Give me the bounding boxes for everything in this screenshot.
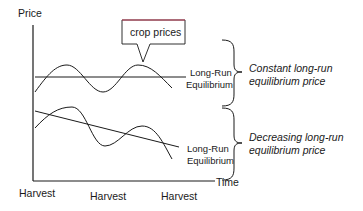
decreasing-equilibrium-line — [35, 111, 179, 147]
x-axis-label: Time — [216, 176, 239, 188]
x-tick-harvest-1: Harvest — [19, 187, 55, 199]
upper-note: Constant long-run equilibrium price — [249, 62, 332, 88]
upper-price-curve — [35, 65, 172, 92]
lower-price-curve — [35, 107, 172, 159]
diagram-canvas — [0, 0, 363, 211]
lower-line-label: Long-Run Equilibrium — [183, 143, 234, 166]
upper-line-label: Long-Run Equilibrium — [186, 67, 233, 90]
lower-note: Decreasing long-run equilibrium price — [249, 131, 344, 157]
callout-label: crop prices — [130, 26, 181, 38]
x-tick-harvest-3: Harvest — [161, 190, 197, 202]
y-axis-label: Price — [18, 7, 42, 19]
x-tick-harvest-2: Harvest — [90, 190, 126, 202]
